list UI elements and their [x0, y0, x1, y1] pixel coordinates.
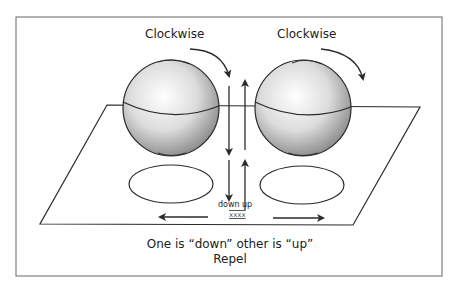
down-label: down: [218, 200, 240, 209]
left-sphere: [123, 60, 219, 156]
left-shadow-ellipse: [129, 165, 213, 203]
left-rotation-label: Clockwise: [145, 27, 204, 41]
right-sphere: [255, 60, 351, 156]
marker-label: xxxx: [229, 211, 246, 219]
caption-line-2: Repel: [0, 252, 460, 267]
right-rotation-label: Clockwise: [277, 27, 336, 41]
up-label: up: [242, 200, 252, 209]
right-shadow-ellipse: [260, 166, 344, 204]
caption-line-1: One is “down” other is “up”: [0, 237, 460, 252]
